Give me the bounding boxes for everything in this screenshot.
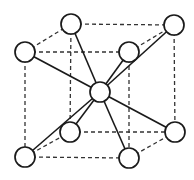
atom-front-top-left (15, 42, 35, 62)
atom-back-top-left (61, 14, 81, 34)
atom-front-bottom-right (119, 148, 139, 168)
bcc-lattice-diagram (0, 0, 194, 180)
atom-back-bottom-right (165, 122, 185, 142)
atom-front-bottom-left (15, 147, 35, 167)
atom-center (90, 82, 110, 102)
atom-front-top-right (119, 42, 139, 62)
atom-back-bottom-left (60, 122, 80, 142)
atom-back-top-right (164, 15, 184, 35)
